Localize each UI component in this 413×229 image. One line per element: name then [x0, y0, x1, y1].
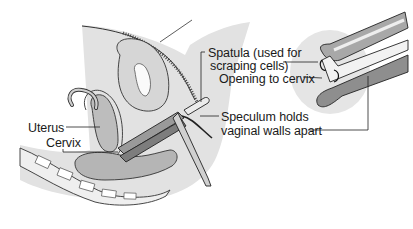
label-spatula-line1: Spatula (used for: [208, 46, 302, 60]
label-speculum-line2: vaginal walls apart: [221, 124, 322, 138]
label-speculum-line1: Speculum holds: [221, 110, 309, 124]
diagram-illustration: [0, 0, 413, 229]
inset-closeup: [290, 12, 408, 114]
label-opening-to-cervix: Opening to cervix: [219, 72, 315, 86]
label-spatula-line2: scraping cells): [210, 59, 288, 73]
leader-line-top: [160, 20, 192, 42]
label-uterus: Uterus: [28, 121, 64, 135]
pap-smear-diagram: Spatula (used for scraping cells) Openin…: [0, 0, 413, 229]
label-cervix: Cervix: [46, 136, 81, 150]
